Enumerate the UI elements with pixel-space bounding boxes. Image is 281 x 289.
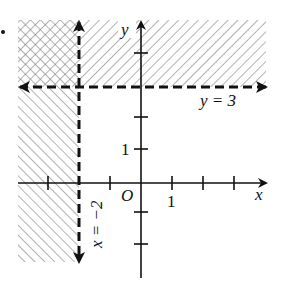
inequality-graph: y x O 1 1 y = 3 x = −2 — [0, 0, 281, 289]
y-axis-label: y — [119, 20, 129, 39]
graph-canvas: y x O 1 1 y = 3 x = −2 — [0, 0, 281, 289]
line-label-y-3: y = 3 — [198, 91, 236, 110]
x-axis-label: x — [254, 185, 263, 204]
region-x-le-neg2 — [18, 20, 79, 262]
y-tick-label-1: 1 — [121, 140, 130, 159]
line-label-x-neg2: x = −2 — [87, 200, 106, 249]
x-tick-label-1: 1 — [167, 192, 176, 211]
bullet-dot — [1, 30, 5, 34]
origin-label: O — [121, 186, 133, 205]
